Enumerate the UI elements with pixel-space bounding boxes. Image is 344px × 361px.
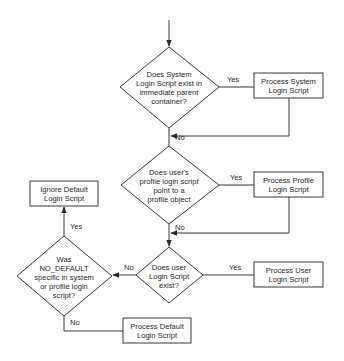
decision-user-login-script: Does user Login Script exist?	[136, 247, 203, 303]
svg-text:specific in system: specific in system	[34, 273, 94, 282]
ignore-default-login-script: Ignore Default Login Script	[30, 181, 98, 206]
svg-text:Login Script: Login Script	[268, 185, 309, 194]
svg-text:Process Default: Process Default	[130, 322, 184, 331]
decision-system-login-script: Does System Login Script exist in immedi…	[120, 47, 219, 128]
svg-text:point to a: point to a	[153, 186, 185, 195]
svg-text:Does user: Does user	[152, 263, 187, 272]
svg-text:immediate parent: immediate parent	[140, 88, 200, 97]
label-d4-yes: Yes	[70, 222, 83, 231]
label-d1-no: No	[175, 133, 185, 142]
label-d3-yes: Yes	[229, 263, 242, 272]
label-d2-yes: Yes	[230, 173, 243, 182]
decision-no-default: Was NO_DEFAULT specific in system or pro…	[17, 236, 112, 316]
svg-text:Login Script: Login Script	[44, 194, 85, 203]
svg-text:profile object: profile object	[147, 195, 191, 204]
decision-profile-login-script: Does user's profile login script point t…	[121, 146, 219, 224]
svg-text:Login Script: Login Script	[137, 331, 178, 340]
svg-text:exist?: exist?	[159, 281, 179, 290]
process-system-login-script: Process System Login Script	[254, 73, 323, 98]
svg-text:Login Script: Login Script	[149, 272, 190, 281]
process-user-login-script: Process User Login Script	[254, 262, 323, 287]
svg-text:Process System: Process System	[261, 77, 316, 86]
svg-text:Was: Was	[57, 255, 72, 264]
svg-text:Does System: Does System	[146, 70, 191, 79]
svg-text:profile login script: profile login script	[139, 177, 199, 186]
label-d3-no: No	[124, 263, 134, 272]
svg-text:NO_DEFAULT: NO_DEFAULT	[39, 264, 89, 273]
label-d4-no: No	[70, 318, 80, 327]
svg-text:Login Script exist in: Login Script exist in	[136, 79, 202, 88]
svg-text:script?: script?	[53, 291, 75, 300]
svg-text:Process Profile: Process Profile	[263, 176, 314, 185]
process-profile-login-script: Process Profile Login Script	[254, 172, 323, 197]
svg-text:container?: container?	[151, 97, 186, 106]
svg-text:Login Script: Login Script	[268, 86, 309, 95]
label-d1-yes: Yes	[227, 75, 240, 84]
svg-text:Ignore Default: Ignore Default	[40, 185, 89, 194]
svg-text:Login Script: Login Script	[268, 275, 309, 284]
svg-text:Does user's: Does user's	[149, 168, 189, 177]
process-default-login-script: Process Default Login Script	[123, 318, 191, 343]
label-d2-no: No	[175, 223, 185, 232]
svg-text:or profile login: or profile login	[40, 282, 88, 291]
flowchart-canvas: Yes No Yes No Yes No Yes No Does System …	[0, 0, 344, 361]
svg-text:Process User: Process User	[266, 266, 312, 275]
